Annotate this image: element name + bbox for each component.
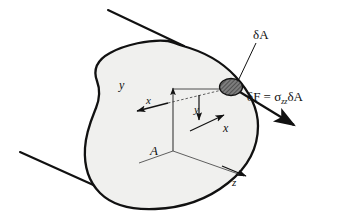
label-axis-x-left: x [146, 95, 151, 106]
delta-area-leader-line [238, 43, 256, 81]
label-force-equation: δF = σzzδA [247, 90, 303, 103]
label-axis-y-main: y [119, 79, 124, 91]
label-axis-x-right: x [223, 122, 228, 134]
stress-element-diagram [0, 0, 354, 224]
label-delta-area: δA [253, 28, 269, 41]
force-equals: = [260, 89, 274, 104]
label-axis-y-small: y [194, 104, 199, 115]
force-suffix: δA [287, 89, 303, 104]
figure-canvas: δA y x y x z A δF = σzzδA [0, 0, 354, 224]
delta-area-element [220, 79, 243, 96]
force-prefix: δF [247, 89, 260, 104]
force-sigma-subscript: zz [281, 97, 287, 106]
label-axis-z: z [232, 177, 236, 188]
label-area: A [150, 144, 158, 157]
